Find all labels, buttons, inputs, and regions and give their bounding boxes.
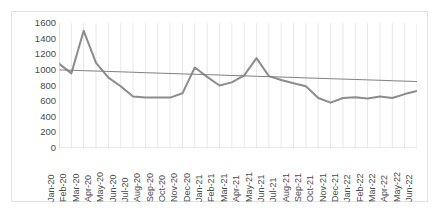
y-tick-label: 1000 (16, 65, 56, 74)
x-tick-label: Apr-20 (83, 150, 93, 202)
y-tick-label: 800 (16, 81, 56, 90)
x-tick-label: Oct-21 (305, 150, 315, 202)
x-tick-label: Jun-20 (108, 150, 118, 202)
x-tick-label: Aug-20 (132, 150, 142, 202)
x-tick-label: Jul-21 (268, 150, 278, 202)
x-tick-label: Feb-22 (355, 150, 365, 202)
x-tick-label: Mar-21 (219, 150, 229, 202)
chart-canvas (59, 23, 417, 148)
x-tick-label: Jan-21 (194, 150, 204, 202)
x-tick-label: Jun-21 (256, 150, 266, 202)
y-tick-label: 200 (16, 127, 56, 136)
x-tick-label: Mar-20 (71, 150, 81, 202)
x-tick-label: Oct-20 (157, 150, 167, 202)
x-tick-label: Aug-21 (281, 150, 291, 202)
y-tick-label: 1600 (16, 18, 56, 27)
x-tick-label: Jan-22 (342, 150, 352, 202)
x-tick-label: May-21 (244, 150, 254, 202)
x-tick-label: Sep-21 (293, 150, 303, 202)
x-axis: Jan-20Feb-20Mar-20Apr-20May-20Jun-20Jul-… (59, 150, 417, 202)
x-tick-label: Jul-20 (120, 150, 130, 202)
data-series-line (59, 31, 417, 103)
x-tick-label: Jan-20 (46, 150, 56, 202)
x-tick-label: Apr-22 (379, 150, 389, 202)
x-tick-label: Dec-21 (330, 150, 340, 202)
y-tick-label: 400 (16, 112, 56, 121)
y-tick-label: 600 (16, 96, 56, 105)
x-tick-label: May-22 (392, 150, 402, 202)
y-tick-label: 1400 (16, 34, 56, 43)
line-chart: 16001400120010008006004002000 Jan-20Feb-… (0, 0, 442, 215)
x-tick-label: Dec-20 (182, 150, 192, 202)
plot-area (59, 23, 417, 148)
x-tick-label: Sep-20 (145, 150, 155, 202)
x-tick-label: Nov-21 (318, 150, 328, 202)
x-tick-label: Feb-20 (58, 150, 68, 202)
y-tick-label: 1200 (16, 49, 56, 58)
x-tick-label: Mar-22 (367, 150, 377, 202)
x-tick-label: May-20 (95, 150, 105, 202)
x-tick-label: Apr-21 (231, 150, 241, 202)
x-tick-label: Jun-22 (404, 150, 414, 202)
x-tick-label: Feb-21 (206, 150, 216, 202)
x-tick-label: Nov-20 (169, 150, 179, 202)
